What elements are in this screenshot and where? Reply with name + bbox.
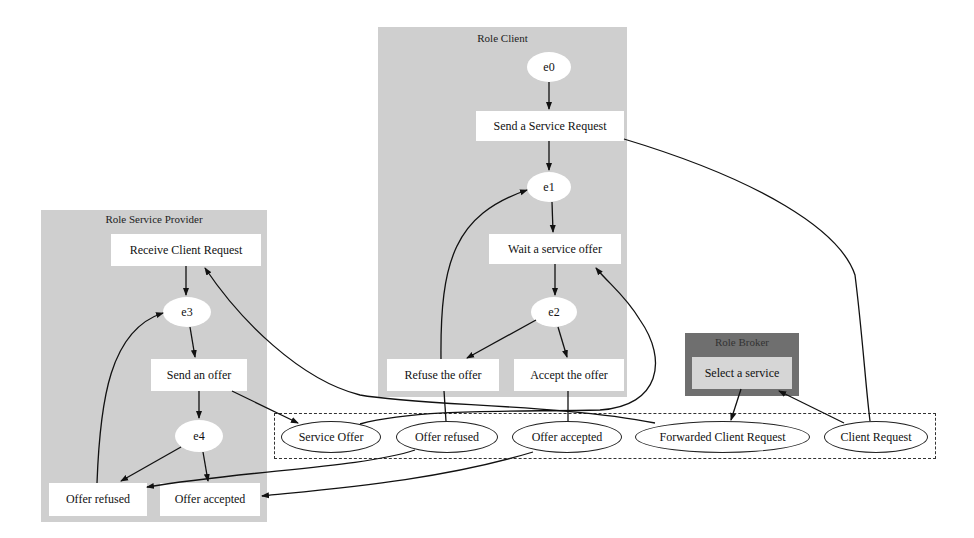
state-e0[interactable]: e0 <box>527 52 571 82</box>
message-offer-refused[interactable]: Offer refused <box>396 421 498 453</box>
message-offer-accepted[interactable]: Offer accepted <box>512 421 622 453</box>
action-wait-service-offer[interactable]: Wait a service offer <box>489 234 621 264</box>
action-send-service-request[interactable]: Send a Service Request <box>476 111 624 141</box>
cluster-title: Role Service Provider <box>41 213 267 225</box>
cluster-title: Role Broker <box>685 336 799 348</box>
action-accept-offer[interactable]: Accept the offer <box>514 359 624 391</box>
message-service-offer[interactable]: Service Offer <box>281 421 381 453</box>
state-e3[interactable]: e3 <box>163 297 211 327</box>
action-offer-refused[interactable]: Offer refused <box>49 483 147 516</box>
cluster-title: Role Client <box>378 32 627 44</box>
state-e2[interactable]: e2 <box>531 297 577 327</box>
action-refuse-offer[interactable]: Refuse the offer <box>387 359 499 391</box>
message-forwarded-client-request[interactable]: Forwarded Client Request <box>635 421 810 453</box>
cluster-role-client: Role Client <box>378 27 627 397</box>
action-offer-accepted[interactable]: Offer accepted <box>160 483 260 516</box>
message-client-request[interactable]: Client Request <box>824 421 928 453</box>
action-select-service[interactable]: Select a service <box>692 357 792 389</box>
state-e1[interactable]: e1 <box>527 172 571 202</box>
action-send-offer[interactable]: Send an offer <box>151 359 247 391</box>
state-e4[interactable]: e4 <box>175 420 223 452</box>
action-receive-client-request[interactable]: Receive Client Request <box>111 234 261 266</box>
